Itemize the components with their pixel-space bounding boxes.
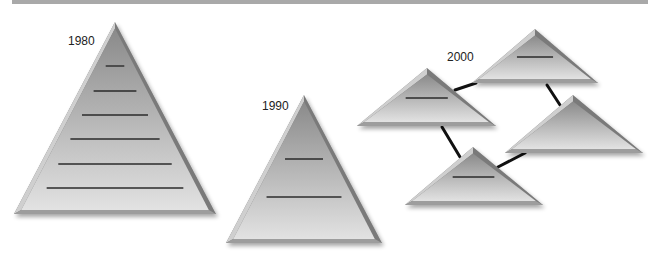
triangle-face [233,101,375,239]
triangle-bottom-edge [472,79,598,83]
triangle-bottom-edge [357,122,496,126]
network-node-top [472,29,598,83]
network-node-left [357,68,496,126]
connector-left-bottom [442,127,460,157]
label-2000: 2000 [447,51,474,63]
hierarchy-to-network-diagram [0,0,655,260]
shapes-layer [14,22,643,243]
triangle-bottom-edge [505,149,643,153]
triangle-bottom-edge [405,201,543,205]
network-node-right [505,95,643,153]
label-1990: 1990 [262,100,289,112]
triangle-face [21,28,209,210]
label-1980: 1980 [68,35,95,47]
pyramid-1980 [14,22,216,214]
connector-top-right [547,85,560,105]
pyramid-1990 [226,95,382,243]
connector-left-top [455,83,476,90]
triangle-face [512,101,636,149]
triangle-bottom-edge [226,239,382,243]
connector-bottom-right [498,153,525,167]
triangle-bottom-edge [14,210,216,214]
